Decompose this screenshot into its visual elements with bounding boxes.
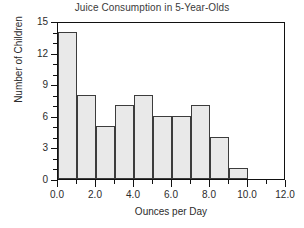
x-axis-tick bbox=[247, 180, 248, 187]
x-axis-tick-label: 2.0 bbox=[75, 189, 115, 200]
y-axis-tick-label: 0 bbox=[10, 174, 48, 185]
x-axis-tick-label: 4.0 bbox=[113, 189, 153, 200]
y-axis-minor-tick bbox=[53, 96, 57, 97]
x-axis-minor-tick bbox=[152, 180, 153, 184]
chart-title: Juice Consumption in 5-Year-Olds bbox=[0, 2, 304, 13]
y-axis-tick-label: 3 bbox=[10, 142, 48, 153]
x-axis-tick-label: 6.0 bbox=[151, 189, 191, 200]
histogram-figure: Juice Consumption in 5-Year-Olds Number … bbox=[0, 0, 304, 228]
y-axis-minor-tick bbox=[53, 138, 57, 139]
x-axis-tick bbox=[285, 180, 286, 187]
histogram-bar bbox=[210, 137, 229, 179]
y-axis-tick bbox=[51, 85, 57, 86]
y-axis-minor-tick bbox=[53, 106, 57, 107]
histogram-bar bbox=[229, 168, 248, 179]
histogram-bar bbox=[77, 95, 96, 179]
y-axis-tick-label: 9 bbox=[10, 79, 48, 90]
y-axis-tick bbox=[51, 54, 57, 55]
y-axis-minor-tick bbox=[53, 64, 57, 65]
histogram-bar bbox=[191, 105, 210, 179]
x-axis-minor-tick bbox=[76, 180, 77, 184]
histogram-bar bbox=[96, 126, 115, 179]
y-axis-minor-tick bbox=[53, 159, 57, 160]
y-axis-tick-label: 15 bbox=[10, 16, 48, 27]
x-axis-tick-label: 10.0 bbox=[227, 189, 267, 200]
x-axis-tick bbox=[95, 180, 96, 187]
y-axis-minor-tick bbox=[53, 43, 57, 44]
plot-area bbox=[57, 22, 285, 180]
histogram-bar bbox=[58, 32, 77, 179]
y-axis-tick bbox=[51, 117, 57, 118]
histogram-bar bbox=[172, 116, 191, 179]
x-axis-tick bbox=[133, 180, 134, 187]
histogram-bar bbox=[115, 105, 134, 179]
y-axis-tick bbox=[51, 22, 57, 23]
histogram-bar bbox=[134, 95, 153, 179]
x-axis-minor-tick bbox=[114, 180, 115, 184]
x-axis-minor-tick bbox=[228, 180, 229, 184]
x-axis-tick-label: 12.0 bbox=[265, 189, 304, 200]
x-axis-tick-label: 0.0 bbox=[37, 189, 77, 200]
bar-series bbox=[58, 23, 284, 179]
y-axis-minor-tick bbox=[53, 127, 57, 128]
x-axis-minor-tick bbox=[190, 180, 191, 184]
x-axis-label: Ounces per Day bbox=[57, 206, 285, 217]
x-axis-tick bbox=[209, 180, 210, 187]
y-axis-tick bbox=[51, 148, 57, 149]
y-axis-tick-label: 12 bbox=[10, 48, 48, 59]
x-axis-minor-tick bbox=[266, 180, 267, 184]
x-axis-tick bbox=[171, 180, 172, 187]
y-axis-minor-tick bbox=[53, 75, 57, 76]
x-axis-tick-label: 8.0 bbox=[189, 189, 229, 200]
y-axis-tick-label: 6 bbox=[10, 111, 48, 122]
x-axis-tick bbox=[57, 180, 58, 187]
histogram-bar bbox=[153, 116, 172, 179]
y-axis-minor-tick bbox=[53, 169, 57, 170]
y-axis-minor-tick bbox=[53, 33, 57, 34]
